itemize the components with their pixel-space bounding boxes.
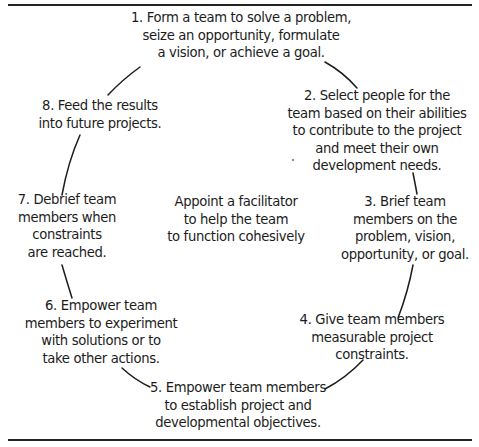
center-line: Appoint a facilitator: [160, 193, 312, 211]
step-1-line: a vision, or achieve a goal.: [128, 44, 354, 62]
step-6-line: with solutions or to: [22, 332, 180, 350]
step-7-line: are reached.: [12, 244, 122, 262]
step-3-line: problem, vision,: [335, 228, 475, 246]
step-5-line: developmental objectives.: [148, 414, 328, 432]
step-8: 8. Feed the results into future projects…: [34, 97, 166, 132]
step-8-line: into future projects.: [34, 115, 166, 133]
step-4: 4. Give team members measurable project …: [297, 311, 447, 364]
step-3: 3. Brief team members on the problem, vi…: [335, 193, 475, 263]
step-4-line: constraints.: [297, 346, 447, 364]
step-1-line: 1. Form a team to solve a problem,: [128, 9, 354, 27]
step-8-line: 8. Feed the results: [34, 97, 166, 115]
step-4-line: measurable project: [297, 329, 447, 347]
step-2-line: development needs.: [282, 157, 472, 175]
step-1: 1. Form a team to solve a problem, seize…: [128, 9, 354, 62]
step-3-line: opportunity, or goal.: [335, 246, 475, 264]
step-2: 2. Select people for the team based on t…: [282, 87, 472, 175]
step-7-line: constraints: [12, 226, 122, 244]
step-2-line: 2. Select people for the: [282, 87, 472, 105]
step-6-line: members to experiment: [22, 315, 180, 333]
connector-8-1: [108, 67, 140, 95]
step-1-line: seize an opportunity, formulate: [128, 27, 354, 45]
step-5: 5. Empower team members to establish pro…: [148, 379, 328, 432]
connector-8-7: [62, 135, 80, 195]
step-2-line: and meet their own: [282, 140, 472, 158]
step-6-line: take other actions.: [22, 350, 180, 368]
connector-1-2: [325, 62, 357, 88]
step-6-line: 6. Empower team: [22, 297, 180, 315]
connector-6-5: [122, 368, 150, 387]
step-7-line: members when: [12, 209, 122, 227]
step-2-line: team based on their abilities: [282, 105, 472, 123]
center-line: to function cohesively: [160, 228, 312, 246]
step-7-line: 7. Debrief team: [12, 191, 122, 209]
step-5-line: to establish project and: [148, 397, 328, 415]
step-5-line: 5. Empower team members: [148, 379, 328, 397]
step-6: 6. Empower team members to experiment wi…: [22, 297, 180, 367]
step-2-line: to contribute to the project: [282, 122, 472, 140]
connector-4-5: [325, 360, 363, 389]
connector-7-6: [62, 265, 72, 298]
step-3-line: 3. Brief team: [335, 193, 475, 211]
center-line: to help the team: [160, 211, 312, 229]
step-4-line: 4. Give team members: [297, 311, 447, 329]
step-3-line: members on the: [335, 211, 475, 229]
step-7: 7. Debrief team members when constraints…: [12, 191, 122, 261]
center-facilitator: Appoint a facilitator to help the team t…: [160, 193, 312, 246]
connector-2-3: [413, 173, 417, 194]
